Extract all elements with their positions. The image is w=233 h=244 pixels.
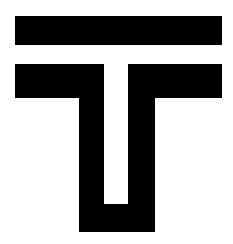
top-bar-shape xyxy=(15,16,222,45)
inner-notch-shape xyxy=(104,64,128,204)
glyph-artboard xyxy=(0,0,233,244)
glyph-svg xyxy=(0,0,233,244)
